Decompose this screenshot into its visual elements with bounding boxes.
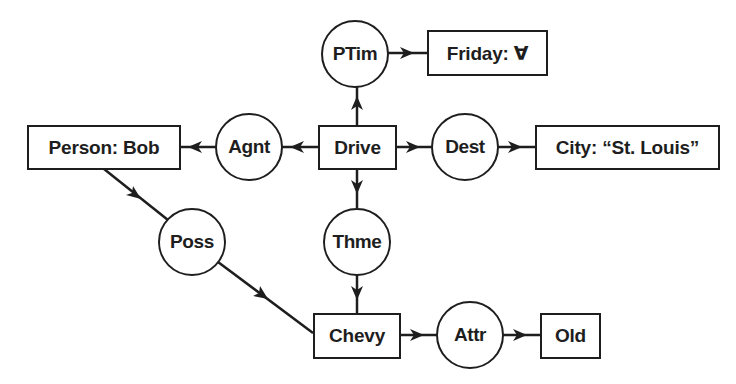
- arrowhead-icon: [253, 286, 268, 299]
- relation-dest: Dest: [431, 113, 499, 181]
- relation-poss-label: Poss: [170, 231, 214, 253]
- relation-thme-label: Thme: [332, 231, 381, 253]
- edge-poss-chevy: [218, 262, 313, 333]
- edge-thme-chevy: [351, 275, 363, 313]
- concept-chevy: Chevy: [313, 313, 401, 359]
- relation-agnt: Agnt: [215, 113, 283, 181]
- edge-drive-ptim: [351, 87, 363, 125]
- concept-city-st-louis: City: “St. Louis”: [535, 125, 720, 170]
- concept-old: Old: [540, 313, 601, 359]
- concept-person-bob-label: Person: Bob: [49, 137, 160, 159]
- relation-dest-label: Dest: [445, 136, 485, 158]
- edge-dest-city: [498, 141, 535, 153]
- edge-drive-thme: [351, 169, 363, 208]
- relation-ptim-label: PTim: [333, 43, 378, 65]
- concept-chevy-label: Chevy: [329, 325, 385, 347]
- relation-poss: Poss: [158, 208, 226, 276]
- edge-attr-old: [503, 329, 540, 341]
- relation-ptim: PTim: [321, 20, 389, 88]
- concept-drive-label: Drive: [334, 137, 381, 159]
- concept-old-label: Old: [555, 325, 586, 347]
- edge-agnt-person: [180, 141, 216, 153]
- edge-drive-agnt: [282, 141, 318, 153]
- concept-friday-label: Friday: ∀: [447, 42, 529, 65]
- edge-chevy-attr: [400, 329, 437, 341]
- relation-attr: Attr: [436, 301, 504, 369]
- relation-thme: Thme: [323, 208, 391, 276]
- conceptual-graph-diagram: Drive Person: Bob Friday: ∀ City: “St. L…: [0, 0, 736, 384]
- concept-person-bob: Person: Bob: [27, 125, 181, 170]
- concept-city-label: City: “St. Louis”: [556, 137, 699, 159]
- concept-friday: Friday: ∀: [427, 30, 548, 76]
- relation-attr-label: Attr: [454, 324, 486, 346]
- edge-person-poss: [104, 169, 168, 220]
- edge-drive-dest: [396, 141, 432, 153]
- edge-ptim-friday: [388, 47, 427, 59]
- concept-drive: Drive: [318, 125, 397, 170]
- relation-agnt-label: Agnt: [228, 136, 270, 158]
